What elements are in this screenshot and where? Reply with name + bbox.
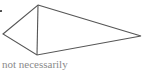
- vertical-diagonal: [37, 5, 38, 55]
- marker-dot: [0, 10, 2, 12]
- kite-diagram: [0, 0, 144, 60]
- quadrilateral-outline: [3, 5, 141, 55]
- caption-text: not necessarily: [2, 58, 68, 71]
